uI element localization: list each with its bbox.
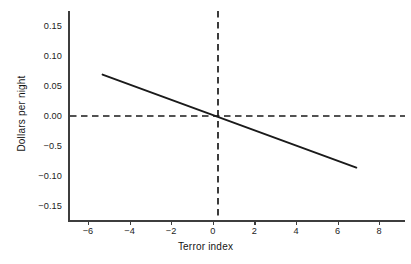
fitted-regression-line xyxy=(103,75,357,168)
plot-area xyxy=(0,0,411,264)
figure-chart: Dollars per night 0.15 0.10 0.05 0.00 −0… xyxy=(0,0,411,264)
